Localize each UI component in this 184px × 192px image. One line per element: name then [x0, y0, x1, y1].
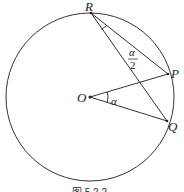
angle-arc-R	[102, 25, 107, 29]
label-Q: Q	[168, 119, 178, 134]
figure-caption: 图 5.2.2	[72, 187, 107, 192]
label-O: O	[77, 90, 87, 105]
label-half-alpha-numerator: α	[129, 46, 135, 58]
label-P: P	[170, 66, 179, 81]
label-half-alpha-denominator: 2	[130, 59, 136, 71]
point-P	[167, 73, 170, 76]
angle-arc-O	[107, 92, 108, 102]
label-alpha: α	[111, 95, 117, 107]
segment-OP	[90, 74, 168, 97]
inscribed-angle-diagram: R P O Q α α 2 图 5.2.2	[0, 0, 184, 192]
label-R: R	[84, 0, 93, 14]
point-O	[89, 96, 92, 99]
segment-OQ	[90, 97, 167, 121]
